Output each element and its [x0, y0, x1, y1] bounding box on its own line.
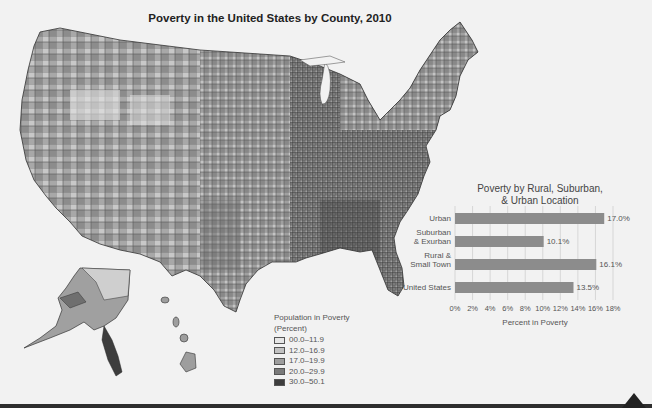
bar-value-label: 10.1%	[547, 237, 570, 246]
x-tick-label: 18%	[605, 304, 620, 313]
x-axis-label: Percent in Poverty	[502, 318, 567, 327]
category-label: Urban	[429, 214, 451, 223]
x-tick-label: 8%	[520, 304, 531, 313]
x-tick-label: 4%	[485, 304, 496, 313]
bar-value-label: 13.5%	[577, 283, 600, 292]
bar-value-label: 17.0%	[607, 214, 630, 223]
poverty-location-bar-chart: 17.0%10.1%16.1%13.5% UrbanSuburban& Exur…	[0, 0, 652, 408]
x-tick-label: 16%	[588, 304, 603, 313]
category-label: Suburban	[416, 228, 451, 237]
x-tick-label: 6%	[502, 304, 513, 313]
category-label: & Exurban	[414, 237, 451, 246]
chart-category-labels: UrbanSuburban& ExurbanRural &Small TownU…	[403, 214, 452, 292]
up-arrow-icon[interactable]	[622, 393, 646, 408]
bottom-divider	[0, 404, 652, 408]
chart-x-ticks: 0%2%4%6%8%10%12%14%16%18%	[450, 304, 621, 313]
bar	[455, 259, 596, 270]
x-tick-label: 10%	[535, 304, 550, 313]
bar	[455, 213, 604, 224]
x-tick-label: 2%	[467, 304, 478, 313]
category-label: Rural &	[424, 251, 451, 260]
x-tick-label: 12%	[553, 304, 568, 313]
category-label: United States	[403, 283, 451, 292]
x-tick-label: 0%	[450, 304, 461, 313]
bar	[455, 236, 544, 247]
bar-value-label: 16.1%	[599, 260, 622, 269]
x-tick-label: 14%	[570, 304, 585, 313]
category-label: Small Town	[410, 260, 451, 269]
bar	[455, 282, 574, 293]
